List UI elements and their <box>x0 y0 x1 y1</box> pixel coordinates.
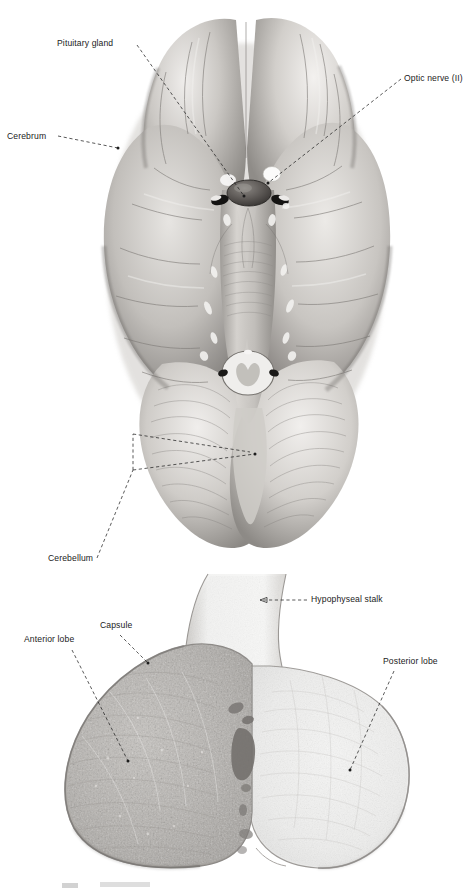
label-anterior-lobe: Anterior lobe <box>24 634 74 644</box>
anatomical-plate: Pituitary gland Optic nerve (II) Cerebru… <box>0 0 468 891</box>
label-optic-nerve: Optic nerve (II) <box>404 73 463 83</box>
bottom-edge-crop-artifact <box>0 877 468 891</box>
pituitary-gland-structure <box>227 180 271 206</box>
label-capsule: Capsule <box>100 620 132 630</box>
posterior-lobe-structure <box>240 652 416 872</box>
label-pituitary-gland: Pituitary gland <box>57 38 113 48</box>
crop-bar-right <box>100 882 150 887</box>
label-cerebellum: Cerebellum <box>48 553 93 563</box>
label-hypophyseal-stalk: Hypophyseal stalk <box>311 594 383 604</box>
label-cerebrum: Cerebrum <box>7 131 46 141</box>
brain-body <box>104 18 390 548</box>
panel-pituitary-section: Hypophyseal stalk Capsule Anterior lobe … <box>0 572 468 891</box>
brain-photograph <box>96 8 396 568</box>
pituitary-histology-section <box>50 572 416 872</box>
label-posterior-lobe: Posterior lobe <box>383 656 438 666</box>
crop-bar-left <box>62 883 78 888</box>
pituitary-section-body <box>50 572 416 872</box>
panel-brain-inferior-view: Pituitary gland Optic nerve (II) Cerebru… <box>0 0 468 575</box>
